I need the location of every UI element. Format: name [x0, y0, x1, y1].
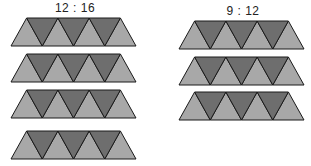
triangle-strip [179, 21, 304, 49]
triangle-strip [11, 131, 136, 159]
triangle-strip [11, 54, 136, 82]
triangle-strip [11, 18, 136, 46]
triangle-strips-diagram [0, 0, 311, 166]
triangle-strip [179, 92, 304, 120]
triangle-strip [179, 57, 304, 85]
triangle-strip [11, 90, 136, 118]
